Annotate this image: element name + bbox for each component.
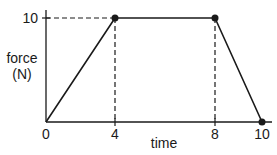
y-tick-label-10: 10 (22, 10, 38, 26)
y-axis-label-line1: force (6, 50, 37, 66)
force-time-chart: 10 0 4 8 10 force (N) time (0, 0, 277, 155)
y-axis-label-line2: (N) (12, 66, 31, 82)
x-tick-label-8: 8 (211, 126, 219, 142)
data-point-10-0 (259, 119, 266, 126)
x-tick-label-4: 4 (111, 126, 119, 142)
data-point-8-10 (212, 15, 219, 22)
force-series-line (46, 18, 262, 122)
x-axis-label: time (151, 135, 178, 151)
x-tick-label-0: 0 (42, 126, 50, 142)
data-point-4-10 (112, 15, 119, 22)
x-tick-label-10: 10 (254, 126, 270, 142)
